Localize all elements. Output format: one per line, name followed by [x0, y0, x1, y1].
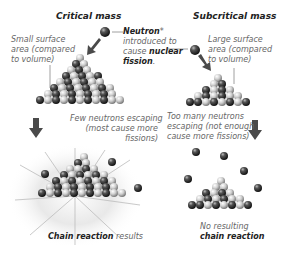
small-surface-label: Small surface area (compared to volume) — [11, 35, 75, 65]
neutron-sphere-right — [190, 45, 200, 55]
too-many-neutrons-label: Too many neutrons escaping (not enough c… — [167, 112, 254, 142]
arrow-left-in — [87, 38, 101, 55]
neutron-label: Neutron* introduced to cause nuclear fis… — [123, 27, 183, 67]
arrow-left-down — [29, 118, 43, 138]
no-chain-reaction-label: No resulting chain reaction — [200, 222, 264, 242]
neutron-sphere-left — [100, 27, 110, 37]
large-surface-label: Large surface area (compared to volume) — [208, 35, 272, 65]
chain-reaction-results-label: Chain reaction results — [48, 232, 143, 242]
subcritical-mass-pyramid — [186, 74, 250, 106]
few-neutrons-label: Few neutrons escaping (most cause more f… — [70, 114, 158, 144]
subcritical-mass-title: Subcritical mass — [193, 11, 276, 21]
critical-mass-title: Critical mass — [56, 11, 121, 21]
no-chain-reaction-pyramid — [184, 148, 262, 209]
